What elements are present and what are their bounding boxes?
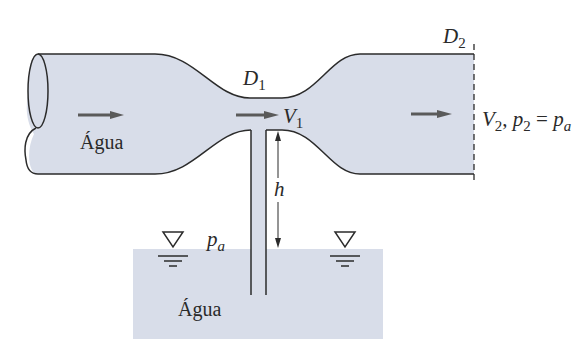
inlet-fluid-label: Água xyxy=(80,131,123,154)
pipe-inlet-ellipse xyxy=(28,54,48,128)
outlet-diameter-label: D2 xyxy=(442,24,466,51)
height-label: h xyxy=(274,177,285,201)
outlet-conditions-label: V2, p2 = pa xyxy=(482,107,571,134)
suction-tube-fill xyxy=(251,126,266,296)
venturi-diagram: Água Água D1 D2 V1 V2, p2 = pa pa h xyxy=(0,0,585,355)
reservoir-fluid-label: Água xyxy=(178,298,221,321)
throat-diameter-label: D1 xyxy=(242,66,266,93)
atmospheric-pressure-label: pa xyxy=(205,227,225,254)
